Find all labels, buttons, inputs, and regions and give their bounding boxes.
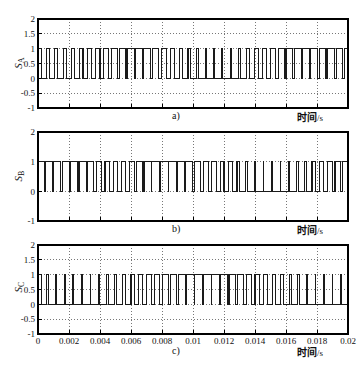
subplot-a-ylabel: SA [12, 43, 26, 83]
subplot-b-xaxis-label: 时间/s [297, 222, 323, 237]
svg-text:1: 1 [31, 270, 36, 280]
svg-text:0.012: 0.012 [214, 336, 234, 346]
subplot-b-ylabel-base: S [12, 176, 24, 182]
svg-text:1.5: 1.5 [24, 29, 36, 39]
subplot-b-xtick-labels [38, 217, 348, 221]
svg-text:-1: -1 [28, 103, 36, 113]
figure-root: -1-0.500.511.52 SA a) 时间/s -1012 SB b) [0, 0, 363, 372]
svg-text:-1: -1 [28, 329, 36, 339]
subplot-c-xaxis-label: 时间/s [297, 344, 323, 359]
svg-text:-1: -1 [28, 216, 36, 226]
subplot-a-plot-group: -1-0.500.511.52 [21, 14, 348, 113]
svg-text:0: 0 [31, 74, 36, 84]
svg-text:1.5: 1.5 [24, 255, 36, 265]
subplot-c-ylabel-base: S [12, 287, 24, 293]
svg-text:-0.5: -0.5 [21, 314, 36, 324]
subplot-c-plot-group: -1-0.500.511.52 00.0020.0040.0060.0080.0… [21, 240, 356, 346]
subplot-b-canvas: -1012 [0, 127, 363, 237]
subplot-a-ylabel-sub: A [17, 57, 26, 63]
svg-text:1: 1 [31, 44, 36, 54]
subplot-b-plot-group: -1012 [28, 127, 349, 226]
subplot-c-panel-label: c) [172, 345, 180, 356]
subplot-a-ylabel-base: S [12, 63, 24, 69]
svg-text:-0.5: -0.5 [21, 88, 36, 98]
svg-text:0: 0 [31, 300, 36, 310]
svg-text:2: 2 [31, 240, 36, 250]
subplot-b: -1012 SB b) 时间/s [0, 127, 363, 237]
subplot-c-gridlines [38, 245, 348, 334]
svg-text:0: 0 [36, 336, 41, 346]
svg-text:1: 1 [31, 157, 36, 167]
subplot-c-ylabel: SC [12, 267, 26, 307]
subplot-b-panel-label: b) [172, 223, 180, 234]
subplot-a-panel-label: a) [172, 110, 180, 121]
subplot-a: -1-0.500.511.52 SA a) 时间/s [0, 14, 363, 124]
svg-text:0.016: 0.016 [276, 336, 297, 346]
svg-text:0.006: 0.006 [121, 336, 142, 346]
svg-text:2: 2 [31, 14, 36, 24]
subplot-a-canvas: -1-0.500.511.52 [0, 14, 363, 124]
svg-text:0.008: 0.008 [152, 336, 173, 346]
svg-text:0.002: 0.002 [59, 336, 79, 346]
svg-text:2: 2 [31, 127, 36, 137]
svg-text:0: 0 [31, 187, 36, 197]
svg-text:0.004: 0.004 [90, 336, 111, 346]
subplot-b-ylabel: SB [12, 156, 26, 196]
svg-text:0.01: 0.01 [185, 336, 201, 346]
subplot-b-ylabel-sub: B [17, 171, 26, 176]
subplot-c: -1-0.500.511.52 00.0020.0040.0060.0080.0… [0, 240, 363, 365]
svg-text:0.014: 0.014 [245, 336, 266, 346]
svg-text:0.02: 0.02 [340, 336, 356, 346]
subplot-b-signal-trace [38, 162, 348, 192]
subplot-b-ytick-labels: -1012 [28, 127, 43, 226]
subplot-c-ylabel-sub: C [17, 282, 26, 287]
subplot-a-xaxis-label: 时间/s [297, 109, 323, 124]
